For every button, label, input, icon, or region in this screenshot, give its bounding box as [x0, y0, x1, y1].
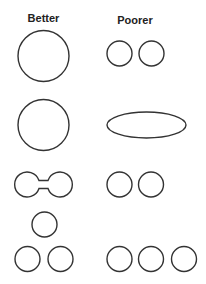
row-1-better-large-circle [18, 31, 69, 82]
better-column-label: Better [28, 12, 61, 24]
row-2-poorer-ellipse [107, 112, 186, 138]
row-4-poorer-three-circles-row [107, 247, 197, 272]
better-poorer-diagram: Better Poorer [0, 0, 206, 284]
row-2-better-large-circle [18, 100, 69, 151]
poorer-column-label: Poorer [117, 14, 153, 26]
row-4-better-triangle-circles [15, 212, 73, 272]
row-3-poorer-two-circles [107, 172, 164, 197]
row-1-poorer-two-circles [107, 41, 164, 66]
row-3-better-dumbbell [15, 172, 73, 197]
